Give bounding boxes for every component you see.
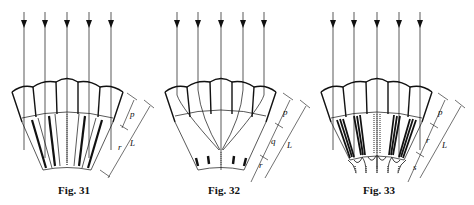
- svg-text:p: p: [437, 107, 443, 117]
- svg-text:p: p: [282, 107, 288, 117]
- figure-32: p q r L Fig. 32: [155, 0, 313, 205]
- svg-text:q: q: [271, 136, 276, 146]
- svg-text:p: p: [129, 109, 135, 119]
- figure-33: p r s L Fig. 33: [310, 0, 468, 205]
- svg-text:s: s: [413, 162, 417, 172]
- figure-32-caption: Fig. 32: [145, 184, 303, 196]
- figure-33-caption: Fig. 33: [300, 184, 458, 196]
- svg-text:L: L: [286, 140, 292, 150]
- svg-text:L: L: [441, 140, 447, 150]
- svg-text:r: r: [426, 135, 430, 145]
- figure-31-caption: Fig. 31: [0, 184, 153, 196]
- figure-33-drawing: p r s L: [310, 0, 474, 205]
- figure-31-drawing: p r L: [0, 0, 158, 205]
- figure-32-drawing: p q r L: [155, 0, 313, 205]
- svg-text:r: r: [118, 142, 122, 152]
- svg-text:r: r: [259, 160, 263, 170]
- svg-text:L: L: [129, 138, 135, 148]
- figure-31: p r L Fig. 31: [0, 0, 158, 205]
